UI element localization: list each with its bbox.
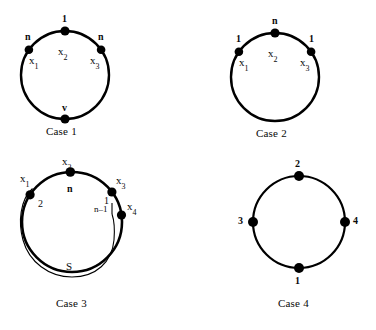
case-2-tag-x2: n [272, 16, 278, 26]
case-2-group [231, 28, 319, 121]
case-3-inner-arc-label: S [66, 261, 72, 272]
case-2-label-x1-sub: 1 [245, 64, 249, 73]
case-1-node-v [60, 114, 69, 123]
case-2-label-x2-sub: 2 [274, 55, 278, 64]
case-2-label-x2: x2 [268, 48, 278, 62]
cases-figure: n 1 n v x1 x2 x3 Case 1 1 n 1 x1 x2 x3 C… [0, 0, 376, 330]
case-3-label-x1: x1 [20, 173, 30, 187]
case-3-node-x1 [26, 190, 35, 199]
diagram-canvas [0, 0, 376, 330]
case-2-node-x1 [235, 48, 244, 57]
case-4-node-left [248, 217, 258, 227]
case-3-label-x1-sub: 1 [26, 180, 30, 189]
case-1-label-x1: x1 [29, 55, 39, 69]
case-2-circle [231, 33, 319, 121]
case-3-label-x3-sub: 3 [122, 182, 126, 191]
case-1-node-x2 [60, 26, 69, 35]
case-1-node-x1 [25, 46, 34, 55]
case-2-tag-x3: 1 [309, 34, 314, 44]
case-1-tag-v: v [62, 103, 67, 113]
case-3-label-x4: x4 [127, 201, 137, 215]
case-2-caption: Case 2 [256, 128, 287, 139]
case-3-label-x4-sub: 4 [133, 208, 137, 217]
case-3-node-x4 [117, 211, 126, 220]
case-4-node-right [340, 217, 350, 227]
case-4-node-bottom [294, 263, 304, 273]
case-1-label-x1-sub: 1 [35, 62, 39, 71]
case-3-label-x2: x2 [62, 156, 72, 170]
case-4-tag-right: 4 [353, 216, 358, 226]
case-1-caption: Case 1 [46, 126, 77, 137]
case-1-label-x2-sub: 2 [64, 53, 68, 62]
case-4-tag-left: 3 [238, 216, 243, 226]
case-3-caption: Case 3 [56, 298, 87, 309]
case-2-node-x3 [307, 48, 316, 57]
case-1-label-x3: x3 [90, 55, 100, 69]
case-1-node-x3 [97, 46, 106, 55]
case-1-label-x2: x2 [58, 46, 68, 60]
case-2-label-x3: x3 [300, 57, 310, 71]
case-3-tag-x2: n [67, 184, 73, 194]
case-3-label-x2-sub: 2 [68, 163, 72, 172]
case-3-group [20, 167, 126, 277]
case-1-tag-x1: n [25, 32, 31, 42]
case-4-tag-top: 2 [295, 159, 300, 169]
case-4-caption: Case 4 [278, 298, 309, 309]
case-4-circle [253, 176, 345, 268]
case-2-label-x1: x1 [239, 57, 249, 71]
case-2-tag-x1: 1 [236, 34, 241, 44]
case-1-tag-x3: n [98, 32, 104, 42]
case-4-group [248, 171, 350, 273]
case-2-label-x3-sub: 3 [306, 64, 310, 73]
case-1-tag-x2: 1 [62, 14, 67, 24]
case-3-label-x3: x3 [116, 175, 126, 189]
case-3-tag-x4: n–1 [94, 205, 108, 214]
case-4-tag-bottom: 1 [295, 276, 300, 286]
case-2-node-x2 [270, 28, 279, 37]
case-1-label-x3-sub: 3 [96, 62, 100, 71]
case-3-tag-x1: 2 [38, 199, 43, 209]
case-4-node-top [294, 171, 304, 181]
